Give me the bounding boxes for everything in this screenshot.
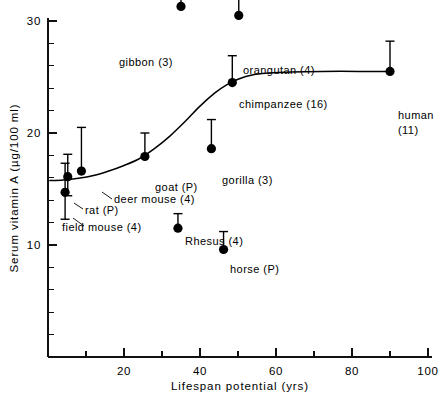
y-tick-label: 10 xyxy=(27,239,41,251)
data-point-label: orangutan (4) xyxy=(243,64,315,76)
data-point-label: rat (P) xyxy=(85,204,119,216)
y-axis-title: Serum vitamin A (µg/100 ml) xyxy=(8,104,20,273)
x-tick-label: 80 xyxy=(345,365,359,377)
data-point-marker xyxy=(77,166,86,175)
data-point-label: deer mouse (4) xyxy=(114,193,195,205)
x-axis-title: Lifespan potential (yrs) xyxy=(171,380,309,392)
vitamin-a-lifespan-scatter-chart: 102030 20406080100 field mouse (4)rat (P… xyxy=(0,0,444,405)
data-point-label: gibbon (3) xyxy=(119,56,173,68)
data-point-label: horse (P) xyxy=(230,263,279,275)
fitted-trend-curve xyxy=(50,71,390,180)
data-point-marker xyxy=(173,224,182,233)
data-point-markers-group xyxy=(61,2,395,254)
data-point-label: goat (P) xyxy=(155,181,198,193)
y-axis-ticks xyxy=(48,0,57,335)
data-point-label: human xyxy=(398,109,434,121)
data-point-label: Rhesus (4) xyxy=(185,235,243,247)
data-point-marker xyxy=(207,144,216,153)
data-point-labels-group: field mouse (4)rat (P)deer mouse (4)goat… xyxy=(62,56,434,275)
label-leader-line xyxy=(74,203,83,209)
human-label-second-line: (11) xyxy=(398,124,419,136)
label-leader-line xyxy=(102,192,112,199)
data-point-marker xyxy=(61,188,70,197)
data-point-marker xyxy=(228,78,237,87)
y-tick-label: 30 xyxy=(27,15,41,27)
data-point-marker xyxy=(63,172,72,181)
x-tick-label: 40 xyxy=(193,365,207,377)
x-tick-label: 20 xyxy=(117,365,131,377)
x-tick-label: 100 xyxy=(417,365,438,377)
x-tick-label: 60 xyxy=(269,365,283,377)
x-axis-ticks xyxy=(86,348,428,357)
data-point-label: chimpanzee (16) xyxy=(239,98,328,110)
y-axis-tick-labels: 102030 xyxy=(27,15,41,251)
x-axis-tick-labels: 20406080100 xyxy=(117,365,439,377)
data-point-label: gorilla (3) xyxy=(222,174,273,186)
data-point-marker xyxy=(176,2,185,11)
axes-group xyxy=(48,18,432,357)
data-point-label: field mouse (4) xyxy=(62,221,142,233)
data-point-marker xyxy=(140,152,149,161)
data-point-marker xyxy=(385,67,394,76)
figure-container: 102030 20406080100 field mouse (4)rat (P… xyxy=(0,0,444,405)
y-tick-label: 20 xyxy=(27,127,41,139)
data-point-marker xyxy=(234,11,243,20)
